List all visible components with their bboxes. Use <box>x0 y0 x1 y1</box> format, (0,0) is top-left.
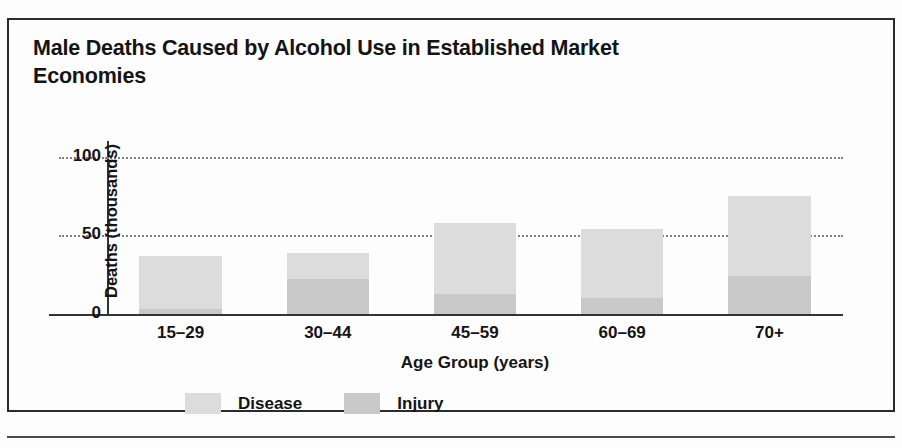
x-axis-line <box>49 314 843 316</box>
bar-segment-injury <box>581 298 663 314</box>
bar-segment-disease <box>581 229 663 298</box>
x-axis-tick-label: 60–69 <box>549 323 696 343</box>
y-axis-tick-label: 100 <box>41 146 101 166</box>
chart-legend: DiseaseInjury <box>185 393 444 414</box>
page-bottom-rule <box>7 436 895 438</box>
legend-swatch <box>344 393 380 414</box>
x-axis-tick-label: 30–44 <box>254 323 401 343</box>
legend-entry-injury: Injury <box>344 393 443 414</box>
x-axis-title: Age Group (years) <box>107 353 843 373</box>
plot-area: 050100 Deaths (thousands) 15–2930–4445–5… <box>107 141 843 314</box>
chart-area: 050100 Deaths (thousands) 15–2930–4445–5… <box>9 20 897 414</box>
bar-segment-disease <box>287 253 369 280</box>
bar-group <box>434 223 516 314</box>
x-axis-tick-label: 45–59 <box>401 323 548 343</box>
bar-group <box>139 256 221 314</box>
y-axis-tick-label: 0 <box>41 303 101 323</box>
figure-frame: Male Deaths Caused by Alcohol Use in Est… <box>7 18 895 412</box>
bar-segment-injury <box>287 279 369 314</box>
y-axis-tick-label: 50 <box>41 224 101 244</box>
bar-segment-injury <box>434 294 516 314</box>
x-axis-tick-label: 15–29 <box>107 323 254 343</box>
legend-entry-disease: Disease <box>185 393 302 414</box>
bar-segment-disease <box>139 256 221 309</box>
bars-layer <box>107 141 843 314</box>
legend-label: Disease <box>238 394 302 414</box>
bar-group <box>581 229 663 314</box>
bar-segment-disease <box>728 196 810 276</box>
bar-group <box>287 253 369 314</box>
y-axis-ticks: 050100 <box>0 141 101 314</box>
bar-segment-disease <box>434 223 516 294</box>
bar-group <box>728 196 810 314</box>
legend-swatch <box>185 393 221 414</box>
x-axis-tick-label: 70+ <box>696 323 843 343</box>
x-axis-ticks: 15–2930–4445–5960–6970+ <box>107 323 843 349</box>
legend-label: Injury <box>397 394 443 414</box>
bar-segment-injury <box>139 309 221 314</box>
bar-segment-injury <box>728 276 810 314</box>
